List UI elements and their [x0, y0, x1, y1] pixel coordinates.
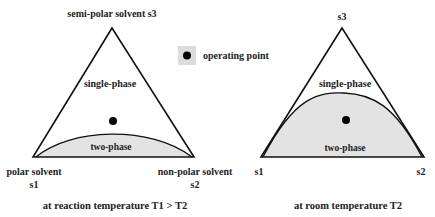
- left-operating-point-marker: [109, 117, 117, 125]
- left-single-phase-label: single-phase: [84, 78, 137, 89]
- left-apex-label: semi-polar solvent s3: [67, 8, 156, 19]
- right-single-phase-label: single-phase: [319, 78, 372, 89]
- right-vertex-s2-label: s2: [417, 166, 426, 177]
- legend-operating-point-marker: [183, 52, 191, 60]
- left-vertex-s2-label: s2: [191, 179, 200, 190]
- left-vertex-s1-label: s1: [30, 179, 39, 190]
- right-vertex-s1-label: s1: [255, 166, 264, 177]
- right-operating-point-marker: [342, 116, 350, 124]
- left-vertex-s1-name: polar solvent: [6, 166, 62, 177]
- left-caption: at reaction temperature T1 > T2: [43, 200, 187, 211]
- ternary-phase-diagrams: semi-polar solvent s3 single-phase two-p…: [0, 0, 435, 217]
- left-vertex-s2-name: non-polar solvent: [158, 166, 233, 177]
- right-two-phase-label: two-phase: [324, 143, 365, 153]
- left-two-phase-label: two-phase: [90, 142, 131, 152]
- right-apex-label: s3: [338, 11, 347, 22]
- right-ternary-diagram: s3 single-phase two-phase s1 s2 at room …: [255, 11, 426, 211]
- left-ternary-diagram: semi-polar solvent s3 single-phase two-p…: [6, 8, 232, 211]
- right-caption: at room temperature T2: [294, 200, 402, 211]
- legend-label: operating point: [203, 50, 270, 61]
- legend: operating point: [178, 46, 270, 65]
